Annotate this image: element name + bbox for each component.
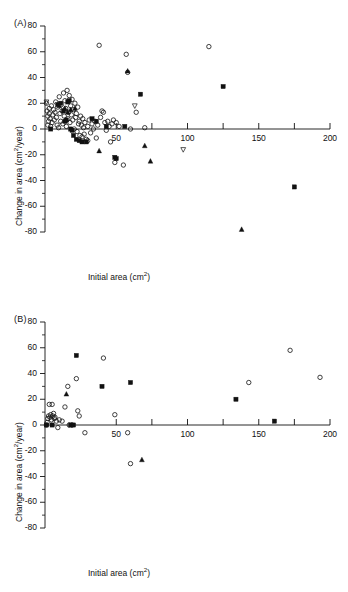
- y-tick-label: 60: [0, 46, 37, 56]
- data-point-circle-open: [111, 118, 115, 122]
- data-point-circle-open: [56, 425, 60, 429]
- y-axis-title: Change in area (cm2/year): [14, 422, 24, 522]
- x-tick-label: 100: [172, 133, 204, 143]
- data-point-circle-open: [207, 44, 211, 48]
- plot-canvas-b: [0, 296, 348, 592]
- data-point-circle-open: [75, 129, 79, 133]
- data-point-circle-open: [66, 384, 70, 388]
- data-points: [44, 348, 322, 466]
- data-point-circle-open: [83, 431, 87, 435]
- y-tick-label: 40: [0, 368, 37, 378]
- data-point-triangle-filled: [239, 227, 244, 232]
- data-point-circle-open: [76, 409, 80, 413]
- data-point-circle-open: [128, 461, 132, 465]
- data-point-circle-open: [97, 43, 101, 47]
- plot-canvas-a: [0, 0, 348, 296]
- y-tick-label: 20: [0, 97, 37, 107]
- data-point-square-filled: [114, 157, 118, 161]
- data-point-square-filled: [234, 397, 238, 401]
- y-tick-label: -80: [0, 226, 37, 236]
- data-point-circle-open: [101, 356, 105, 360]
- data-point-square-filled: [71, 133, 75, 137]
- data-point-circle-open: [71, 118, 75, 122]
- data-point-square-filled: [123, 124, 127, 128]
- data-point-circle-open: [94, 136, 98, 140]
- data-point-square-filled: [128, 380, 132, 384]
- data-point-circle-open: [86, 124, 90, 128]
- data-point-circle-open: [67, 93, 71, 97]
- data-point-circle-open: [57, 95, 61, 99]
- data-point-circle-open: [98, 115, 102, 119]
- data-point-circle-open: [90, 122, 94, 126]
- data-point-circle-open: [88, 131, 92, 135]
- x-tick-label: 200: [314, 429, 346, 439]
- data-point-circle-open: [65, 88, 69, 92]
- data-point-square-filled: [44, 423, 48, 427]
- data-point-square-filled: [71, 423, 75, 427]
- data-point-triangle-down: [132, 104, 137, 109]
- data-point-square-filled: [80, 140, 84, 144]
- data-point-square-filled: [70, 128, 74, 132]
- x-axis-title: Initial area (cm2): [88, 568, 150, 578]
- data-point-circle-open: [74, 376, 78, 380]
- y-tick-label: 80: [0, 316, 37, 326]
- data-point-circle-open: [288, 348, 292, 352]
- data-point-circle-open: [83, 120, 87, 124]
- data-point-triangle-filled: [97, 148, 102, 153]
- data-point-square-filled: [50, 423, 54, 427]
- data-point-square-filled: [74, 353, 78, 357]
- y-tick-label: 80: [0, 20, 37, 30]
- x-tick-label: 150: [243, 429, 275, 439]
- data-point-square-filled: [64, 118, 68, 122]
- y-tick-label: 40: [0, 72, 37, 82]
- y-tick-label: 60: [0, 342, 37, 352]
- data-point-circle-open: [113, 413, 117, 417]
- data-point-square-filled: [100, 384, 104, 388]
- data-point-square-filled: [272, 419, 276, 423]
- y-tick-label: -80: [0, 522, 37, 532]
- figure-root: (A)806040200-20-40-60-8050100150200Chang…: [0, 0, 348, 592]
- data-point-circle-open: [63, 405, 67, 409]
- data-point-circle-open: [117, 124, 121, 128]
- data-point-circle-open: [50, 402, 54, 406]
- panel-b: (B)806040200-20-40-60-8050100150200Chang…: [0, 296, 348, 592]
- x-tick-label: 100: [172, 429, 204, 439]
- data-point-circle-open: [96, 123, 100, 127]
- data-point-square-filled: [94, 119, 98, 123]
- data-point-square-filled: [221, 84, 225, 88]
- data-point-square-filled: [49, 127, 53, 131]
- data-point-circle-open: [121, 163, 125, 167]
- panel-a: (A)806040200-20-40-60-8050100150200Chang…: [0, 0, 348, 296]
- data-point-triangle-filled: [64, 392, 69, 397]
- data-point-square-filled: [138, 92, 142, 96]
- data-point-circle-open: [134, 110, 138, 114]
- data-point-circle-open: [64, 124, 68, 128]
- data-point-circle-open: [77, 414, 81, 418]
- data-point-triangle-filled: [73, 106, 78, 111]
- data-point-circle-open: [318, 375, 322, 379]
- data-point-circle-open: [247, 380, 251, 384]
- data-point-circle-open: [113, 160, 117, 164]
- data-point-square-filled: [90, 117, 94, 121]
- data-point-circle-open: [124, 52, 128, 56]
- data-point-circle-open: [73, 101, 77, 105]
- data-point-square-filled: [84, 140, 88, 144]
- x-tick-label: 50: [100, 429, 132, 439]
- y-axis-title: Change in area (cm2/year): [14, 126, 24, 226]
- x-tick-label: 150: [243, 133, 275, 143]
- data-point-triangle-down: [181, 148, 186, 153]
- data-point-triangle-filled: [140, 457, 145, 462]
- x-tick-label: 200: [314, 133, 346, 143]
- x-axis-title: Initial area (cm2): [88, 272, 150, 282]
- data-point-triangle-filled: [142, 143, 147, 148]
- data-point-square-filled: [104, 124, 108, 128]
- x-tick-label: 50: [100, 133, 132, 143]
- data-point-triangle-filled: [148, 159, 153, 164]
- y-tick-label: 20: [0, 393, 37, 403]
- data-point-square-filled: [292, 185, 296, 189]
- data-point-square-filled: [67, 99, 71, 103]
